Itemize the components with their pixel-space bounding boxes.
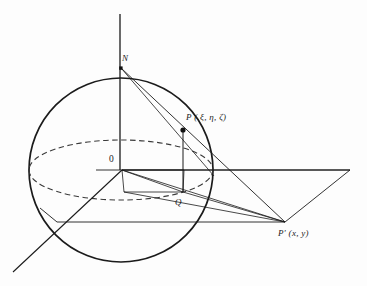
diagram-canvas: [0, 0, 367, 286]
stereographic-projection-figure: N 0 Q P ( ξ, η, ζ) P′ (x, y): [0, 0, 367, 286]
plane-rays-to-p-prime: [122, 170, 285, 222]
plane-edge-left: [40, 208, 57, 222]
label-north-pole: N: [122, 54, 128, 63]
point-marker-n: [119, 66, 122, 69]
box-edge-xi-foot-to-o: [122, 170, 124, 192]
label-origin: 0: [109, 155, 114, 165]
label-point-q: Q: [175, 198, 182, 207]
point-marker-p: [180, 127, 185, 132]
label-point-p: P ( ξ, η, ζ): [186, 113, 226, 122]
projection-plane: [40, 170, 350, 222]
label-point-p-prime: P′ (x, y): [278, 229, 309, 238]
plane-edge-right: [285, 170, 350, 222]
ray-q-to-p-prime: [183, 192, 285, 222]
axis-xi-diagonal: [13, 170, 122, 272]
